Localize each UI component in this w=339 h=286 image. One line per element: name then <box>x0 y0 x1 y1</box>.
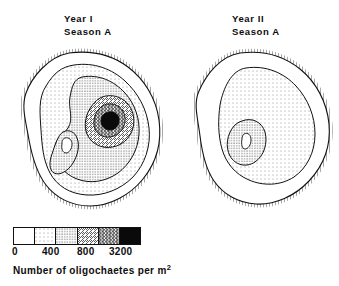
figure-oligochaete-distribution: Year I Season A Year II Season A <box>0 0 339 286</box>
legend-tick-800: 800 <box>77 246 95 257</box>
legend-tick-3200: 3200 <box>109 246 132 257</box>
legend-swatch-dots-fine-fill <box>35 228 55 244</box>
legend-tick-0: 0 <box>12 246 18 257</box>
map-title-left-year: Year I <box>64 12 112 25</box>
legend-swatch-crosshatch-fill <box>99 228 119 244</box>
map-title-right-year: Year II <box>232 12 280 25</box>
legend-swatch-diagonal-fill <box>78 228 98 244</box>
legend-swatch-solid <box>120 228 140 244</box>
legend-swatch-crosshatch <box>99 228 120 244</box>
map-title-left-season: Season A <box>64 25 112 38</box>
figure-caption: Number of oligochaetes per m2 <box>13 263 171 276</box>
legend-swatch-dots-fine <box>35 228 56 244</box>
legend-tick-labels: 0 400 800 3200 <box>13 246 163 260</box>
caption-unit: m <box>158 265 167 276</box>
legend: 0 400 800 3200 <box>13 227 163 260</box>
legend-swatch-dots-dense-fill <box>56 228 76 244</box>
map-title-right: Year II Season A <box>232 12 280 38</box>
caption-exponent: 2 <box>167 263 172 272</box>
contour-map-year-2 <box>176 46 336 214</box>
legend-swatch-diagonal <box>78 228 99 244</box>
map-title-left: Year I Season A <box>64 12 112 38</box>
map-panel-year-2 <box>176 46 336 214</box>
contour-map-year-1 <box>6 46 172 214</box>
caption-text: Number of oligochaetes per <box>13 265 154 276</box>
legend-tick-400: 400 <box>42 246 60 257</box>
legend-swatch-blank <box>14 228 35 244</box>
legend-bar <box>13 227 141 245</box>
map-title-right-season: Season A <box>232 25 280 38</box>
map-panel-year-1 <box>6 46 172 214</box>
contour-maximum-core-left <box>101 112 119 130</box>
legend-swatch-dots-dense <box>56 228 77 244</box>
